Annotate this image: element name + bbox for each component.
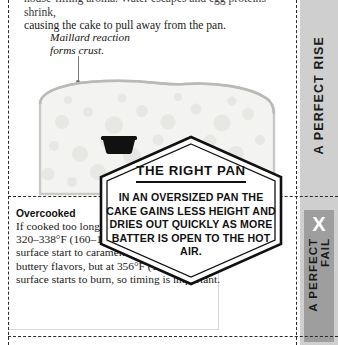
intro-paragraph-line1: house-filling aroma. Water escapes and e…	[24, 0, 286, 19]
infographic-page: A PERFECT RISE X A PERFECT FAIL house-fi…	[0, 0, 338, 345]
callout-title: THE RIGHT PAN	[136, 163, 245, 183]
callout-body: IN AN OVERSIZED PAN THE CAKE GAINS LESS …	[104, 191, 278, 259]
maillard-annotation-line1: Maillard reaction	[50, 31, 130, 44]
fail-x-mark: X	[304, 214, 334, 234]
tab-a-perfect-rise[interactable]: A PERFECT RISE	[300, 0, 338, 196]
maillard-annotation: Maillard reaction forms crust.	[50, 31, 130, 57]
tab-fail-panel: X A PERFECT FAIL	[304, 210, 334, 342]
tab-fail-label-line2: FAIL	[319, 238, 331, 267]
tab-a-perfect-fail[interactable]: X A PERFECT FAIL	[300, 196, 338, 345]
tab-fail-label-line1: A PERFECT	[307, 238, 319, 312]
cut-line-right	[296, 0, 297, 345]
side-tab-column: A PERFECT RISE X A PERFECT FAIL	[300, 0, 338, 345]
right-pan-callout: THE RIGHT PAN IN AN OVERSIZED PAN THE CA…	[97, 133, 285, 288]
tab-a-perfect-rise-label: A PERFECT RISE	[313, 36, 326, 154]
cut-line-bottom	[8, 336, 338, 337]
maillard-annotation-line2: forms crust.	[50, 44, 130, 57]
callout-text-block: THE RIGHT PAN IN AN OVERSIZED PAN THE CA…	[97, 133, 285, 288]
intro-paragraph: house-filling aroma. Water escapes and e…	[24, 0, 286, 33]
tab-fail-labels: A PERFECT FAIL	[304, 238, 334, 342]
